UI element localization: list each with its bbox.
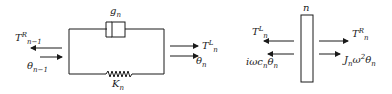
spring-icon bbox=[106, 71, 132, 77]
disk-label: n bbox=[303, 3, 309, 13]
diagram-canvas bbox=[0, 0, 392, 94]
disk-inertia-label: Jnω2θn bbox=[344, 55, 376, 65]
damper-icon bbox=[106, 22, 125, 37]
disk-left-torque-label: TLn bbox=[252, 27, 268, 37]
right-angle-label: θn bbox=[196, 56, 207, 66]
spring-label: Kn bbox=[112, 79, 124, 89]
left-angle-label: θn−1 bbox=[27, 61, 48, 71]
disk-right-torque-label: TRn bbox=[352, 29, 368, 39]
right-torque-label: TLn bbox=[202, 41, 218, 51]
disk-icon bbox=[301, 15, 313, 82]
damper-label: gn bbox=[110, 6, 121, 16]
disk-damping-label: iωcnθn bbox=[246, 57, 278, 67]
left-torque-label: TRn−1 bbox=[15, 33, 42, 43]
